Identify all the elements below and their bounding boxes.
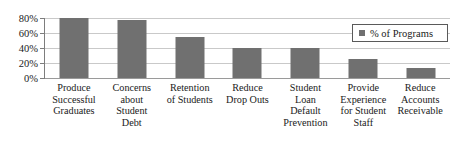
bar-slot <box>103 18 161 78</box>
x-axis-label-provide-experience-for-student-staff: Provide Experience for Student Staff <box>332 82 394 128</box>
x-axis-label-retention-of-students: Retention of Students <box>159 82 221 105</box>
bar-concerns-about-student-debt[interactable] <box>117 20 146 78</box>
x-axis-label-line: Concerns <box>103 82 161 94</box>
y-axis-tick <box>40 33 44 34</box>
y-axis-tick <box>40 48 44 49</box>
x-axis-label-line: Reduce <box>219 82 277 94</box>
x-axis-label-line: Produce <box>45 82 103 94</box>
x-axis-label-line: Debt <box>103 117 161 129</box>
x-axis-label-reduce-drop-outs: Reduce Drop Outs <box>219 82 277 105</box>
x-axis-labels: Produce Successful Graduates Concerns ab… <box>45 82 450 144</box>
bar-retention-of-students[interactable] <box>175 37 204 78</box>
x-axis-label-line: Drop Outs <box>219 94 277 106</box>
bar-reduce-accounts-receivable[interactable] <box>407 68 436 78</box>
x-axis-label-line: Accounts <box>390 94 450 106</box>
y-axis-tick-label: 60% <box>0 28 38 39</box>
y-axis-tick <box>40 63 44 64</box>
legend-swatch-icon <box>359 30 365 36</box>
legend[interactable]: % of Programs <box>352 24 448 42</box>
x-axis-label-line: Default <box>274 105 336 117</box>
x-axis-label-line: Retention <box>159 82 221 94</box>
bar-slot <box>161 18 219 78</box>
x-axis-label-line: Provide <box>332 82 394 94</box>
y-axis-tick <box>40 18 44 19</box>
gridline-0-baseline <box>44 78 450 79</box>
x-axis-label-line: Prevention <box>274 117 336 129</box>
y-axis-tick-label: 20% <box>0 58 38 69</box>
x-axis-label-line: Experience <box>332 94 394 106</box>
bar-slot <box>276 18 334 78</box>
x-axis-label-line: Staff <box>332 117 394 129</box>
bar-slot <box>219 18 277 78</box>
x-axis-label-line: Graduates <box>45 105 103 117</box>
bar-provide-experience-for-student-staff[interactable] <box>349 59 378 78</box>
y-axis-tick-label: 80% <box>0 13 38 24</box>
y-axis-tick <box>40 78 44 79</box>
x-axis-label-line: Receivable <box>390 105 450 117</box>
x-axis-label-reduce-accounts-receivable: Reduce Accounts Receivable <box>390 82 450 117</box>
bar-slot <box>45 18 103 78</box>
x-axis-label-line: Reduce <box>390 82 450 94</box>
x-axis-label-line: Successful <box>45 94 103 106</box>
bar-produce-successful-graduates[interactable] <box>59 18 88 78</box>
x-axis-label-produce-successful-graduates: Produce Successful Graduates <box>45 82 103 117</box>
x-axis-label-concerns-about-student-debt: Concerns about Student Debt <box>103 82 161 128</box>
bar-chart: 80% 60% 40% 20% 0% <box>0 0 455 148</box>
x-axis-label-line: about <box>103 94 161 106</box>
x-axis-label-line: for Student <box>332 105 394 117</box>
x-axis-label-student-loan-default-prevention: Student Loan Default Prevention <box>274 82 336 128</box>
x-axis-label-line: of Students <box>159 94 221 106</box>
x-axis-label-line: Student <box>274 82 336 94</box>
bar-student-loan-default-prevention[interactable] <box>291 48 320 78</box>
x-axis-label-line: Loan <box>274 94 336 106</box>
bar-reduce-drop-outs[interactable] <box>233 48 262 78</box>
x-axis-label-line: Student <box>103 105 161 117</box>
legend-label: % of Programs <box>370 28 433 39</box>
y-axis-tick-label: 40% <box>0 43 38 54</box>
y-axis-tick-label: 0% <box>0 73 38 84</box>
